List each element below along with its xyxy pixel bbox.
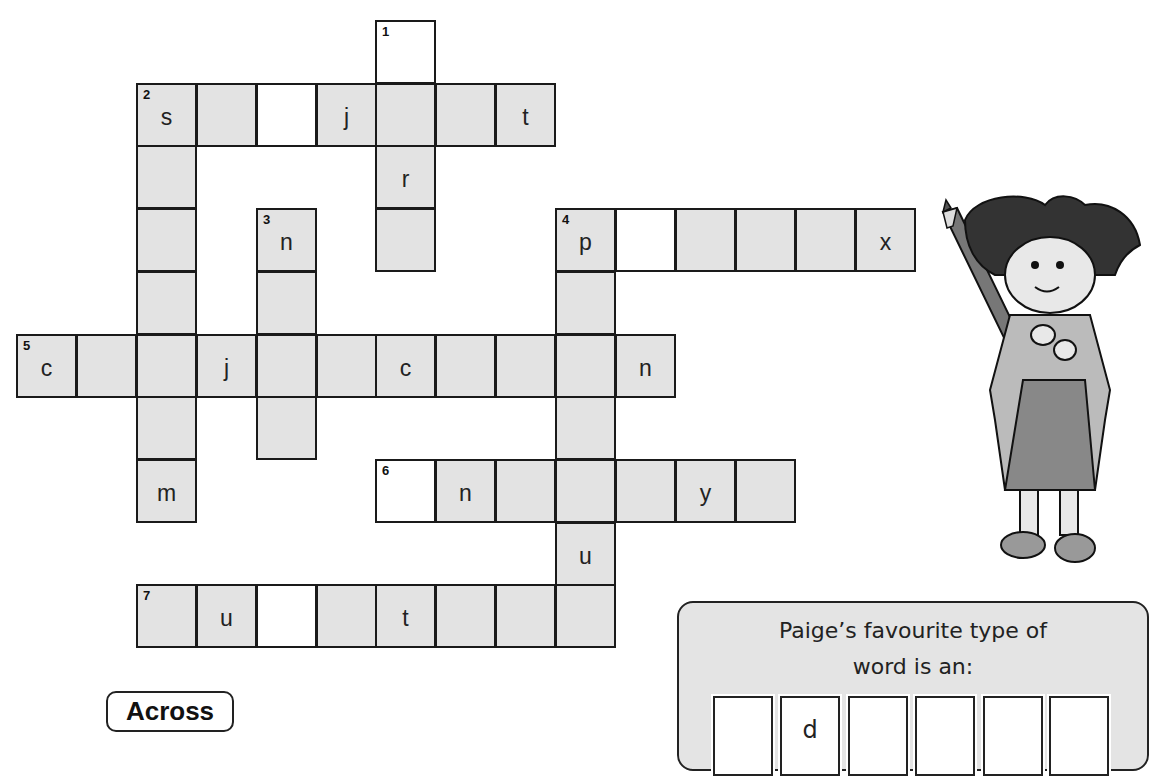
crossword-cell[interactable]: x bbox=[855, 208, 916, 272]
answer-box[interactable] bbox=[848, 696, 908, 776]
across-heading: Across bbox=[106, 691, 234, 732]
crossword-cell[interactable] bbox=[435, 584, 496, 648]
crossword-cell[interactable]: y bbox=[675, 459, 736, 523]
crossword-cell[interactable] bbox=[196, 83, 257, 147]
crossword-cell[interactable] bbox=[435, 83, 496, 147]
cell-letter: c bbox=[400, 355, 412, 382]
crossword-cell[interactable]: t bbox=[375, 584, 436, 648]
crossword-cell[interactable] bbox=[555, 271, 616, 335]
crossword-cell[interactable] bbox=[555, 459, 616, 523]
answer-box[interactable]: d bbox=[780, 696, 840, 776]
crossword-cell[interactable]: j bbox=[316, 83, 377, 147]
cell-letter: j bbox=[344, 104, 349, 131]
prompt-line-1: Paige’s favourite type of bbox=[679, 613, 1147, 649]
crossword-cell[interactable] bbox=[615, 208, 676, 272]
crossword-cell[interactable] bbox=[675, 208, 736, 272]
crossword-cell[interactable] bbox=[735, 208, 796, 272]
cell-letter: j bbox=[224, 355, 229, 382]
crossword-cell[interactable]: r bbox=[375, 145, 436, 209]
crossword-cell[interactable] bbox=[375, 83, 436, 147]
crossword-cell[interactable] bbox=[256, 334, 317, 398]
cell-letter: c bbox=[41, 355, 53, 382]
crossword-cell[interactable] bbox=[136, 145, 197, 209]
crossword-cell[interactable] bbox=[495, 334, 556, 398]
crossword-cell[interactable] bbox=[735, 459, 796, 523]
crossword-cell[interactable]: j bbox=[196, 334, 257, 398]
cell-letter: n bbox=[639, 355, 652, 382]
answer-box[interactable] bbox=[983, 696, 1043, 776]
crossword-cell[interactable] bbox=[795, 208, 856, 272]
crossword-cell[interactable] bbox=[316, 584, 377, 648]
clue-number: 4 bbox=[562, 212, 569, 227]
cell-letter: n bbox=[459, 480, 472, 507]
crossword-cell[interactable] bbox=[136, 396, 197, 460]
crossword-cell[interactable] bbox=[375, 208, 436, 272]
crossword-cell[interactable]: c bbox=[375, 334, 436, 398]
cell-letter: m bbox=[157, 480, 176, 507]
clue-number: 1 bbox=[382, 24, 389, 39]
crossword-cell[interactable] bbox=[435, 334, 496, 398]
answer-box[interactable] bbox=[713, 696, 773, 776]
crossword-cell[interactable] bbox=[555, 334, 616, 398]
crossword-cell[interactable]: t bbox=[495, 83, 556, 147]
clue-number: 5 bbox=[23, 338, 30, 353]
crossword-cell[interactable] bbox=[615, 459, 676, 523]
crossword-cell[interactable]: 3n bbox=[256, 208, 317, 272]
answer-box[interactable] bbox=[915, 696, 975, 776]
crossword-cell[interactable] bbox=[495, 584, 556, 648]
crossword-cell[interactable]: u bbox=[196, 584, 257, 648]
crossword-cell[interactable]: n bbox=[615, 334, 676, 398]
answer-prompt: Paige’s favourite type of word is an: bbox=[679, 613, 1147, 685]
crossword-cell[interactable] bbox=[316, 334, 377, 398]
crossword-cell[interactable] bbox=[256, 271, 317, 335]
prompt-line-2: word is an: bbox=[679, 649, 1147, 685]
crossword-cell[interactable]: 7 bbox=[136, 584, 197, 648]
crossword-cell[interactable] bbox=[136, 271, 197, 335]
crossword-cell[interactable] bbox=[256, 396, 317, 460]
cell-letter: u bbox=[220, 605, 233, 632]
crossword-cell[interactable] bbox=[256, 584, 317, 648]
crossword-cell[interactable]: 4p bbox=[555, 208, 616, 272]
cell-letter: y bbox=[700, 480, 712, 507]
child-with-pencil-illustration bbox=[935, 190, 1165, 575]
crossword-cell[interactable] bbox=[555, 584, 616, 648]
clue-number: 6 bbox=[382, 463, 389, 478]
crossword-cell[interactable]: u bbox=[555, 522, 616, 586]
crossword-cell[interactable]: 2s bbox=[136, 83, 197, 147]
crossword-cell[interactable] bbox=[136, 208, 197, 272]
crossword-cell[interactable]: 1 bbox=[375, 20, 436, 84]
crossword-cell[interactable] bbox=[76, 334, 137, 398]
crossword-cell[interactable]: m bbox=[136, 459, 197, 523]
crossword-cell[interactable] bbox=[555, 396, 616, 460]
cell-letter: n bbox=[280, 229, 293, 256]
cell-letter: t bbox=[522, 104, 528, 131]
cell-letter: p bbox=[579, 229, 592, 256]
crossword-cell[interactable]: n bbox=[435, 459, 496, 523]
clue-number: 3 bbox=[263, 212, 270, 227]
cell-letter: t bbox=[402, 605, 408, 632]
cell-letter: r bbox=[402, 166, 410, 193]
cell-letter: u bbox=[579, 543, 592, 570]
clue-number: 7 bbox=[143, 588, 150, 603]
crossword-cell[interactable] bbox=[495, 459, 556, 523]
cell-letter: s bbox=[161, 104, 173, 131]
clue-number: 2 bbox=[143, 87, 150, 102]
crossword-cell[interactable] bbox=[256, 83, 317, 147]
crossword-cell[interactable]: 5c bbox=[16, 334, 77, 398]
cell-letter: x bbox=[880, 229, 892, 256]
answer-panel: Paige’s favourite type of word is an: d bbox=[677, 601, 1149, 771]
answer-box[interactable] bbox=[1049, 696, 1109, 776]
crossword-cell[interactable]: 6 bbox=[375, 459, 436, 523]
crossword-cell[interactable] bbox=[136, 334, 197, 398]
